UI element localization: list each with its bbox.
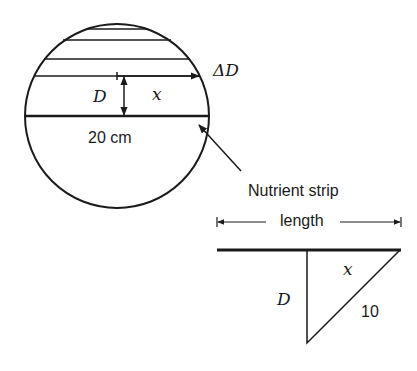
delta-d-label: ΔD (213, 62, 239, 79)
depth-d-label: D (93, 88, 107, 105)
horizontal-strips (35, 29, 199, 76)
diagram-canvas (0, 0, 417, 371)
hypotenuse-label: 10 (361, 304, 379, 320)
length-label: length (280, 213, 324, 229)
triangle-x-label: x (343, 261, 353, 278)
callout-arrow (199, 125, 241, 171)
right-triangle (307, 250, 400, 343)
nutrient-strip-label: Nutrient strip (248, 183, 339, 199)
diameter-label: 20 cm (88, 130, 132, 146)
half-width-x-label: x (152, 86, 162, 103)
triangle-d-label: D (277, 291, 291, 308)
